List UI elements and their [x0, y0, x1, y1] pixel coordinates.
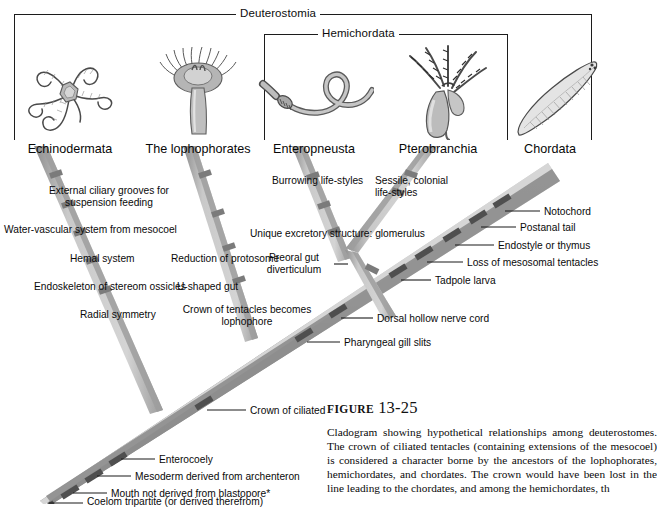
character-c10: Sessile, colonial life-styles — [375, 175, 448, 198]
figure-caption-text: Cladogram showing hypothetical relations… — [327, 425, 657, 495]
character-c14: Postanal tail — [520, 222, 576, 234]
character-c19: Pharyngeal gill slits — [344, 337, 431, 349]
character-c05: Radial symmetry — [80, 309, 156, 321]
figure-heading: FIGURE 13-25 — [327, 398, 622, 418]
character-c18: Dorsal hollow nerve cord — [377, 313, 489, 325]
character-c16: Loss of mesosomal tentacles — [467, 257, 598, 269]
character-c21: Enterocoely — [159, 454, 213, 466]
figure-number: 13-25 — [378, 398, 418, 417]
figure-caption-block: FIGURE 13-25 Cladogram showing hypotheti… — [327, 398, 622, 495]
character-c08: Crown of tentacles becomes lophophore — [171, 304, 323, 327]
character-c09: Burrowing life-styles — [272, 175, 363, 187]
character-c15: Endostyle or thymus — [498, 240, 590, 252]
character-c07: U-shaped gut — [177, 281, 238, 293]
character-c13: Notochord — [544, 206, 591, 218]
character-c17: Tadpole larva — [435, 275, 496, 287]
character-c11: Unique excretory structure: glomerulus — [250, 228, 425, 240]
character-c02: Water-vascular system from mesocoel — [4, 224, 177, 236]
character-c22: Mesoderm derived from archenteron — [135, 471, 300, 483]
character-c24: Coelom tripartite (or derived therefrom) — [87, 496, 263, 508]
character-c01: External ciliary grooves for suspension … — [12, 185, 206, 208]
character-c04: Endoskeleton of stereom ossicles — [34, 281, 186, 293]
figure-word: FIGURE — [327, 403, 374, 415]
character-c03: Hemal system — [70, 253, 135, 265]
character-c12: Preoral gut diverticulum — [254, 252, 334, 275]
